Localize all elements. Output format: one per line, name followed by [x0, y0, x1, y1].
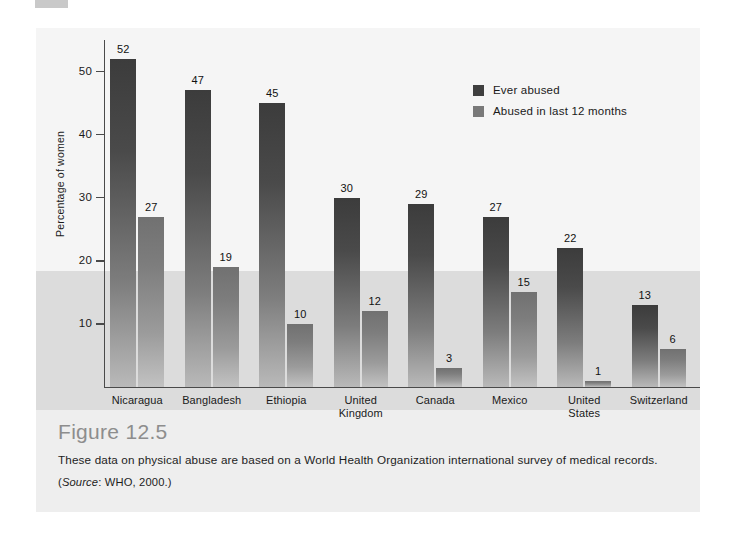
bar-value-label: 27 — [476, 201, 516, 213]
figure-caption-block: Figure 12.5 These data on physical abuse… — [58, 420, 688, 488]
bar-value-label: 47 — [178, 74, 218, 86]
bar-value-label: 45 — [252, 87, 292, 99]
bar-last-12-months — [287, 324, 313, 387]
legend-label: Abused in last 12 months — [493, 105, 627, 117]
figure-panel: 1020304050 Percentage of women 522747194… — [36, 28, 700, 512]
legend-swatch-icon — [473, 106, 484, 117]
y-tick-mark — [96, 134, 105, 135]
legend-item: Ever abused — [473, 84, 627, 96]
chart-legend: Ever abusedAbused in last 12 months — [473, 84, 627, 126]
source-rest: : WHO, 2000.) — [98, 476, 171, 488]
bar-value-label: 22 — [550, 232, 590, 244]
y-axis-title: Percentage of women — [54, 124, 66, 244]
bar-value-label: 10 — [280, 308, 320, 320]
y-tick-label: 10 — [62, 317, 92, 329]
bar-ever-abused — [110, 59, 136, 387]
bar-value-label: 6 — [653, 333, 693, 345]
y-tick-label: 30 — [62, 191, 92, 203]
source-word: Source — [62, 476, 98, 488]
x-label-line: Kingdom — [316, 407, 406, 420]
bar-ever-abused — [259, 103, 285, 387]
bar-value-label: 19 — [206, 251, 246, 263]
bar-last-12-months — [436, 368, 462, 387]
page-corner-tab — [35, 0, 68, 8]
bar-value-label: 1 — [578, 365, 618, 377]
figure-source-line: (Source: WHO, 2000.) — [58, 476, 688, 488]
y-axis-line — [104, 40, 105, 388]
bar-last-12-months — [362, 311, 388, 387]
x-axis-line — [104, 387, 700, 388]
y-tick-mark — [96, 260, 105, 261]
figure-caption-text: These data on physical abuse are based o… — [58, 453, 688, 466]
bar-ever-abused — [334, 198, 360, 387]
y-tick-label: 50 — [62, 65, 92, 77]
bar-ever-abused — [185, 90, 211, 387]
bar-last-12-months — [213, 267, 239, 387]
y-tick-mark — [96, 197, 105, 198]
legend-label: Ever abused — [493, 84, 560, 96]
y-tick-label: 40 — [62, 128, 92, 140]
y-tick-label: 20 — [62, 254, 92, 266]
y-tick-mark — [96, 323, 105, 324]
figure-number: Figure 12.5 — [58, 420, 688, 444]
bar-value-label: 27 — [131, 201, 171, 213]
legend-item: Abused in last 12 months — [473, 105, 627, 117]
x-label-line: Switzerland — [614, 394, 704, 407]
bar-last-12-months — [585, 381, 611, 387]
bar-last-12-months — [511, 292, 537, 387]
bar-value-label: 30 — [327, 182, 367, 194]
bar-last-12-months — [660, 349, 686, 387]
x-axis-category-label: Switzerland — [614, 394, 704, 407]
bar-last-12-months — [138, 217, 164, 387]
x-label-line: States — [539, 407, 629, 420]
chart-plot-area: 1020304050 Percentage of women 522747194… — [36, 28, 700, 410]
bar-value-label: 15 — [504, 276, 544, 288]
bar-ever-abused — [632, 305, 658, 387]
bar-ever-abused — [483, 217, 509, 387]
bar-value-label: 29 — [401, 188, 441, 200]
y-tick-mark — [96, 71, 105, 72]
bar-value-label: 52 — [103, 43, 143, 55]
bar-value-label: 12 — [355, 295, 395, 307]
bar-value-label: 13 — [625, 289, 665, 301]
legend-swatch-icon — [473, 85, 484, 96]
bar-value-label: 3 — [429, 352, 469, 364]
